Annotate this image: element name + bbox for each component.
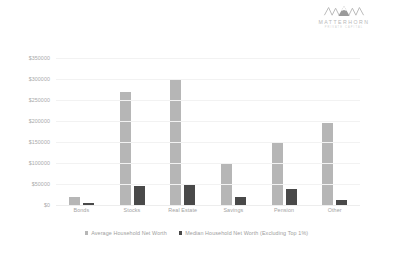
y-axis-tick-label: $100000	[29, 160, 50, 166]
mountain-logo-icon	[323, 4, 365, 18]
gridline	[56, 163, 360, 164]
gridline	[56, 79, 360, 80]
x-axis-tick-label: Savings	[208, 207, 259, 213]
bar-average[interactable]	[272, 143, 283, 205]
legend-item[interactable]: Median Household Net Worth (Excluding To…	[179, 230, 308, 236]
x-axis: BondsStocksReal EstateSavingsPensionOthe…	[56, 207, 360, 213]
y-axis-tick-label: $50000	[32, 181, 50, 187]
brand-tagline: PRIVATE CAPITAL	[307, 27, 381, 30]
bar-median[interactable]	[184, 184, 195, 205]
y-axis-tick-label: $350000	[29, 55, 50, 61]
legend-label: Median Household Net Worth (Excluding To…	[185, 230, 308, 236]
y-axis: $350000$300000$250000$200000$150000$1000…	[0, 58, 54, 205]
bar-median[interactable]	[134, 186, 145, 205]
legend-label: Average Household Net Worth	[91, 230, 167, 236]
bar-median[interactable]	[286, 189, 297, 205]
bar-groups	[56, 58, 360, 205]
chart-legend: Average Household Net WorthMedian Househ…	[0, 230, 393, 236]
gridline	[56, 142, 360, 143]
legend-swatch-icon	[85, 231, 88, 234]
bar-average[interactable]	[322, 123, 333, 205]
gridline	[56, 58, 360, 59]
legend-item[interactable]: Average Household Net Worth	[85, 230, 167, 236]
bar-group	[107, 58, 158, 205]
bar-average[interactable]	[69, 197, 80, 205]
bar-group	[56, 58, 107, 205]
legend-swatch-icon	[179, 231, 182, 234]
y-axis-tick-label: $250000	[29, 97, 50, 103]
gridline	[56, 100, 360, 101]
bar-group	[157, 58, 208, 205]
y-axis-tick-label: $200000	[29, 118, 50, 124]
y-axis-tick-label: $150000	[29, 139, 50, 145]
gridline	[56, 205, 360, 206]
gridline	[56, 184, 360, 185]
x-axis-tick-label: Stocks	[107, 207, 158, 213]
bar-average[interactable]	[120, 92, 131, 205]
y-axis-tick-label: $300000	[29, 76, 50, 82]
bar-group	[259, 58, 310, 205]
bar-chart: $350000$300000$250000$200000$150000$1000…	[0, 45, 393, 256]
gridline	[56, 121, 360, 122]
x-axis-tick-label: Pension	[259, 207, 310, 213]
x-axis-tick-label: Other	[309, 207, 360, 213]
x-axis-tick-label: Real Estate	[157, 207, 208, 213]
x-axis-tick-label: Bonds	[56, 207, 107, 213]
bar-group	[309, 58, 360, 205]
y-axis-tick-label: $0	[44, 202, 50, 208]
brand-logo: MATTERHORN PRIVATE CAPITAL	[307, 4, 381, 29]
brand-name: MATTERHORN	[307, 20, 381, 25]
plot-area	[56, 58, 360, 205]
bar-median[interactable]	[235, 197, 246, 205]
bar-group	[208, 58, 259, 205]
